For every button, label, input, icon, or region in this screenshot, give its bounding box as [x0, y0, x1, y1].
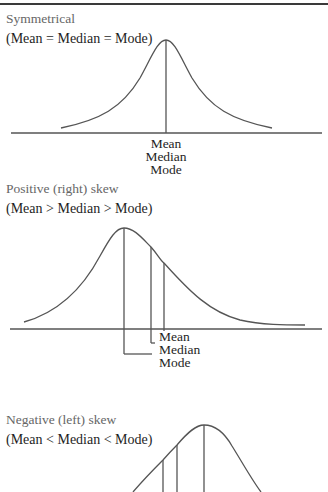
- positive-labels: Mean Median Mode: [159, 330, 200, 369]
- negative-curve: [133, 425, 261, 492]
- distribution-curves: [0, 0, 328, 492]
- label-mode: Mode: [136, 163, 196, 176]
- label-mode: Mode: [159, 356, 200, 369]
- symmetrical-labels: Mean Median Mode: [136, 137, 196, 176]
